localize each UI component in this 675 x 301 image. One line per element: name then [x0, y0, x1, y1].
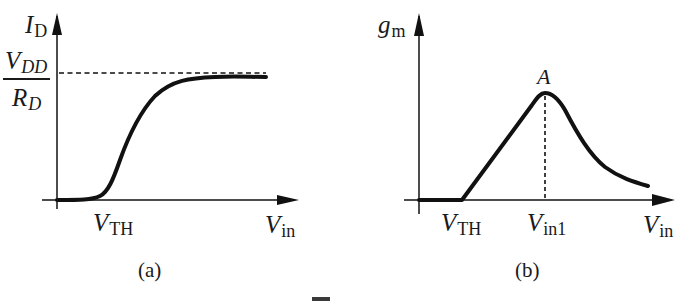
vin1-symbol: V: [527, 209, 542, 236]
panel-a-id-curve: [57, 77, 266, 200]
mosfet-characteristics-figure: ID VDD RD VTH Vin (a) gm A VTH Vin1 Vin …: [0, 0, 675, 301]
figure-graphics: [0, 0, 675, 301]
x-symbol: V: [643, 211, 658, 238]
y-subscript: m: [392, 21, 406, 41]
x-symbol: V: [265, 211, 280, 238]
x-subscript: in: [659, 221, 673, 241]
vin1-subscript: in1: [543, 219, 566, 239]
panel-b-y-axis-label: gm: [378, 12, 406, 37]
vth-subscript: TH: [109, 219, 133, 239]
y-symbol: I: [25, 11, 33, 38]
panel-b-vth-tick-label: VTH: [441, 210, 481, 235]
panel-b-y-axis-arrow-icon: [414, 13, 424, 36]
panel-b-x-axis-label: Vin: [643, 212, 673, 237]
panel-a-graphics: [42, 13, 299, 209]
panel-a-x-axis-arrow-icon: [277, 195, 299, 205]
panel-b-peak-label: A: [537, 66, 550, 88]
x-subscript: in: [281, 221, 295, 241]
panel-a-vth-tick-label: VTH: [93, 210, 133, 235]
numerator-symbol: V: [5, 47, 20, 74]
numerator-subscript: DD: [21, 57, 47, 77]
denominator-subscript: D: [28, 94, 41, 114]
panel-a-asymptote-denominator: RD: [12, 85, 41, 110]
y-symbol: g: [378, 11, 391, 38]
panel-a-x-axis-label: Vin: [265, 212, 295, 237]
vth-symbol: V: [441, 209, 456, 236]
vth-symbol: V: [93, 209, 108, 236]
panel-b-x-axis-arrow-icon: [652, 194, 675, 206]
panel-a-asymptote-numerator: VDD: [5, 48, 47, 73]
cropped-caption-fragment: [312, 297, 330, 301]
panel-a-y-axis-arrow-icon: [52, 13, 62, 35]
denominator-symbol: R: [12, 84, 27, 111]
panel-a-fraction-bar: [3, 78, 50, 80]
panel-b-label: (b): [515, 260, 540, 281]
panel-b-vin1-tick-label: Vin1: [527, 210, 566, 235]
vth-subscript: TH: [457, 219, 481, 239]
panel-b-gm-curve: [419, 93, 648, 200]
y-subscript: D: [34, 21, 47, 41]
panel-b-graphics: [404, 13, 675, 214]
panel-a-y-axis-label: ID: [25, 12, 47, 37]
panel-a-label: (a): [138, 260, 161, 281]
